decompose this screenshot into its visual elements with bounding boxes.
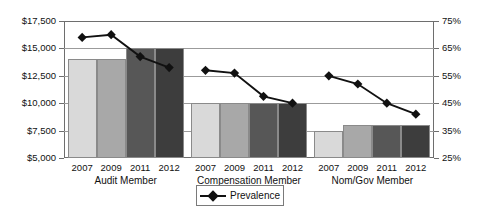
x-axis-tick-label: 2012 (278, 162, 307, 173)
prevalence-data-point-marker (201, 66, 210, 75)
prevalence-line-segment (206, 70, 293, 103)
x-axis-tick-label: 2011 (249, 162, 278, 173)
prevalence-data-point-marker (411, 110, 420, 119)
x-axis-group-label: Nom/Gov Member (311, 175, 434, 187)
prevalence-data-point-marker (78, 33, 87, 42)
prevalence-legend-marker-icon (200, 190, 226, 202)
x-axis-tick-label: 2012 (401, 162, 430, 173)
chart-legend: Prevalence (196, 185, 284, 206)
x-axis-tick-label: 2007 (191, 162, 220, 173)
x-axis-tick-label: 2007 (314, 162, 343, 173)
x-axis-tick-label: 2009 (220, 162, 249, 173)
x-axis-tick-label: 2011 (372, 162, 401, 173)
x-axis-tick-label: 2007 (68, 162, 97, 173)
prevalence-data-point-marker (288, 99, 297, 108)
prevalence-data-point-marker (324, 71, 333, 80)
prevalence-data-point-marker (165, 63, 174, 72)
x-axis-tick-label: 2011 (126, 162, 155, 173)
x-axis-tick-label: 2009 (97, 162, 126, 173)
x-axis-tick-label: 2009 (343, 162, 372, 173)
x-axis-group-label: Audit Member (64, 175, 187, 187)
x-axis-tick-label: 2012 (155, 162, 184, 173)
chart-container: $17,500$15,000$12,500$10,000$7,500$5,000… (0, 0, 497, 215)
prevalence-line-segment (329, 76, 416, 114)
legend-item-label: Prevalence (230, 190, 280, 201)
prevalence-line-segment (82, 35, 169, 68)
